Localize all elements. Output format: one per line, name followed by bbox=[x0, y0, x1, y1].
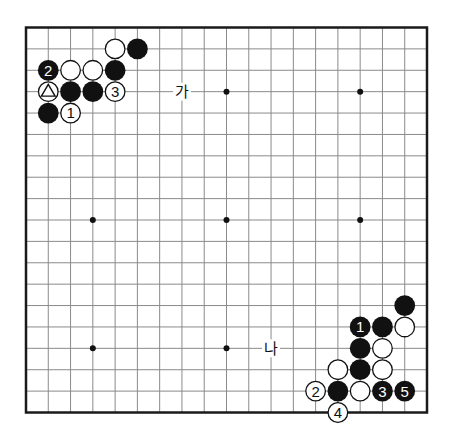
black-stone-5: 5 bbox=[394, 381, 415, 402]
star-point bbox=[224, 217, 230, 223]
star-point bbox=[357, 217, 363, 223]
svg-text:나: 나 bbox=[264, 340, 278, 358]
white-stone-4: 4 bbox=[328, 403, 348, 423]
move-number: 1 bbox=[356, 318, 364, 335]
black-stone bbox=[38, 103, 59, 124]
white-stone bbox=[395, 317, 415, 337]
star-point bbox=[90, 345, 96, 351]
white-stone bbox=[373, 360, 393, 380]
star-point bbox=[90, 217, 96, 223]
black-stone bbox=[105, 60, 126, 81]
black-stone bbox=[350, 359, 371, 380]
black-stone bbox=[350, 338, 371, 359]
move-number: 5 bbox=[401, 383, 409, 400]
black-stone bbox=[394, 295, 415, 316]
white-stone bbox=[350, 381, 370, 401]
black-stone-3: 3 bbox=[372, 381, 393, 402]
point-label-ga: 가 bbox=[173, 83, 191, 102]
white-stone bbox=[328, 360, 348, 380]
move-number: 1 bbox=[66, 104, 74, 121]
white-stone bbox=[83, 60, 103, 80]
star-point bbox=[224, 345, 230, 351]
white-stone-triangle-marked bbox=[38, 82, 58, 102]
black-stone bbox=[327, 381, 348, 402]
svg-text:가: 가 bbox=[175, 83, 189, 101]
white-stone-3: 3 bbox=[105, 82, 125, 102]
move-number: 4 bbox=[334, 404, 342, 421]
white-stone-1: 1 bbox=[61, 103, 81, 123]
black-stone bbox=[82, 81, 103, 102]
move-number: 3 bbox=[378, 383, 386, 400]
black-stone bbox=[60, 81, 81, 102]
black-stone-2: 2 bbox=[38, 60, 59, 81]
white-stone bbox=[105, 39, 125, 59]
move-number: 2 bbox=[311, 383, 319, 400]
star-point bbox=[357, 89, 363, 95]
white-stone bbox=[61, 60, 81, 80]
white-stone bbox=[373, 339, 393, 359]
star-point bbox=[224, 89, 230, 95]
black-stone bbox=[372, 317, 393, 338]
black-stone bbox=[127, 38, 148, 59]
white-stone-2: 2 bbox=[306, 381, 326, 401]
point-label-na: 나 bbox=[262, 339, 280, 358]
move-number: 2 bbox=[44, 62, 52, 79]
black-stone-1: 1 bbox=[350, 317, 371, 338]
go-board-diagram: 가나 23112354 bbox=[0, 0, 453, 443]
move-number: 3 bbox=[111, 83, 119, 100]
